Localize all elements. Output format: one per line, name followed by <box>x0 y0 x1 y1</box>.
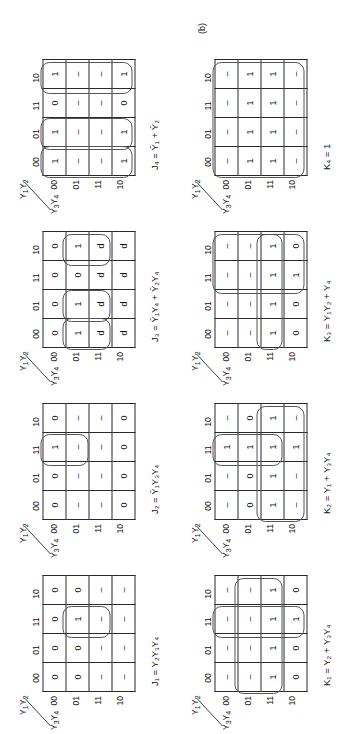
J2-kmap: Y1Y2Y3Y4000111100010––––––––000000011110… <box>18 394 44 544</box>
kmap-cell: – <box>284 60 307 89</box>
row-header: 00 <box>42 696 64 714</box>
kmap-cell: 1 <box>43 433 66 462</box>
kmap-cell: 0 <box>284 319 307 348</box>
kmap-cell: 1 <box>238 60 261 89</box>
row-header: 11 <box>86 524 108 542</box>
column-header: 01 <box>202 292 212 320</box>
column-header: 10 <box>202 64 212 92</box>
kmap-row-headers: 00011110 <box>42 352 130 370</box>
column-header: 01 <box>30 636 40 664</box>
row-header: 11 <box>86 180 108 198</box>
kmap-row-headers: 00011110 <box>42 696 130 714</box>
kmap-row: –––– <box>215 576 238 692</box>
row-header: 01 <box>236 352 258 370</box>
kmap-cell: 1 <box>261 663 284 692</box>
kmap-cell: – <box>89 60 112 89</box>
kmap-cell: 1 <box>284 433 307 462</box>
kmap-cell: – <box>89 605 112 634</box>
kmap-cell: 1 <box>261 60 284 89</box>
row-header: 00 <box>42 524 64 542</box>
kmap-column-headers: 00011110 <box>202 408 212 520</box>
kmap-grid: ––––––––11110010 <box>214 231 307 348</box>
kmap-cell: – <box>284 89 307 118</box>
row-header: 10 <box>108 180 130 198</box>
kmap-equation: J₁ = Y₂Y₃Y₄ <box>148 637 159 686</box>
kmap-cell: 0 <box>43 261 66 290</box>
kmap-row: –––– <box>215 60 238 176</box>
kmap-cell: – <box>66 147 89 176</box>
kmap-cell: – <box>215 491 238 520</box>
kmap-cell: d <box>89 290 112 319</box>
kmap-cell: d <box>112 261 135 290</box>
kmap-cell: d <box>89 232 112 261</box>
kmap-cell: – <box>238 663 261 692</box>
kmap-cell: 0 <box>112 491 135 520</box>
row-header: 00 <box>214 352 236 370</box>
kmap-cell: d <box>89 319 112 348</box>
kmap-cell: 1 <box>261 89 284 118</box>
kmap-cell: 1 <box>238 118 261 147</box>
kmap-cell: – <box>215 261 238 290</box>
K4-kmap: Y1Y2Y3Y400011110––––11111111––––00011110… <box>190 50 216 200</box>
J1-kmap: Y1Y2Y3Y40001111000000010––––––––00011110… <box>18 566 44 716</box>
column-header: 00 <box>202 664 212 692</box>
kmap-cell: – <box>112 605 135 634</box>
kmap-cell: – <box>238 290 261 319</box>
column-header: 11 <box>202 608 212 636</box>
K3-kmap: Y1Y2Y3Y400011110––––––––1111001000011110… <box>190 222 216 372</box>
kmap-row: 1101 <box>112 60 135 176</box>
kmap-cell: 0 <box>43 491 66 520</box>
kmap-cell: – <box>112 576 135 605</box>
kmap-cell: – <box>215 462 238 491</box>
kmap-cell: 1 <box>261 462 284 491</box>
kmap-cell: 1 <box>261 605 284 634</box>
kmap-cell: – <box>215 147 238 176</box>
row-header: 10 <box>108 524 130 542</box>
K1-kmap: Y1Y2Y3Y400011110––––––––1111001000011110… <box>190 566 216 716</box>
kmap-row: –––– <box>89 576 112 692</box>
row-header: 00 <box>42 352 64 370</box>
column-header: 00 <box>202 492 212 520</box>
kmap-cell: – <box>89 89 112 118</box>
kmap-row: 1111 <box>261 60 284 176</box>
kmap-column: Y1Y2Y3Y40001111000001101dddddddd00011110… <box>0 202 351 372</box>
row-header: 00 <box>42 180 64 198</box>
row-header: 10 <box>108 696 130 714</box>
kmap-cell: – <box>66 60 89 89</box>
column-header: 10 <box>30 580 40 608</box>
J4-kmap: Y1Y2Y3Y4000111101101––––––––110100011110… <box>18 50 44 200</box>
kmap-cell: 1 <box>43 60 66 89</box>
kmap-cell: – <box>215 89 238 118</box>
kmap-cell: – <box>238 634 261 663</box>
kmap-row: 1111 <box>261 404 284 520</box>
kmap-cell: 0 <box>284 576 307 605</box>
kmap-equation: K₄ = 1 <box>320 144 331 170</box>
column-header: 10 <box>30 64 40 92</box>
kmap-equation: J₃ = Ȳ₁Y₄ + Ȳ₂Y₄ <box>148 272 159 342</box>
kmap-cell: 0 <box>284 634 307 663</box>
kmap-cell: 1 <box>261 232 284 261</box>
kmap-row: 1101 <box>66 232 89 348</box>
kmap-cell: 1 <box>112 60 135 89</box>
row-header: 11 <box>86 352 108 370</box>
kmap-cell: 0 <box>284 232 307 261</box>
kmap-cell: – <box>112 663 135 692</box>
kmap-cell: 0 <box>238 462 261 491</box>
kmap-cell: – <box>66 491 89 520</box>
kmap-grid-wrap: 00000010––––––––00011110 <box>42 575 135 692</box>
kmap-cell: 1 <box>43 118 66 147</box>
kmap-grid-wrap: 1101––––––––110100011110 <box>42 59 135 176</box>
kmap-cell: 1 <box>66 319 89 348</box>
kmap-cell: d <box>112 319 135 348</box>
kmap-cell: 0 <box>66 663 89 692</box>
kmap-cell: 0 <box>66 576 89 605</box>
kmap-row: 0010 <box>66 576 89 692</box>
kmap-cell: – <box>89 433 112 462</box>
kmap-cell: – <box>215 605 238 634</box>
kmap-cell: – <box>238 319 261 348</box>
kmap-row: –––– <box>89 60 112 176</box>
kmap-row-headers: 00011110 <box>214 696 302 714</box>
kmap-column: Y1Y2Y3Y4000111101101––––––––110100011110… <box>0 30 351 200</box>
kmap-figure: Y1Y2Y3Y40001111000000010––––––––00011110… <box>0 0 351 734</box>
kmap-cell: 0 <box>112 462 135 491</box>
